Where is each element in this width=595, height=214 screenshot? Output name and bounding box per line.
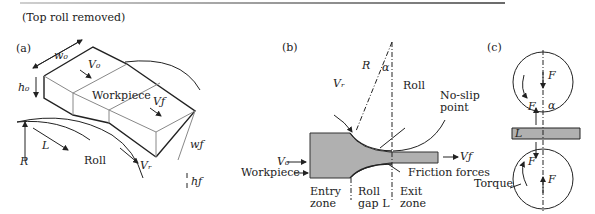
panel-a-drawing bbox=[17, 40, 200, 188]
label-alpha-c: α bbox=[548, 100, 555, 112]
label-w0: w₀ bbox=[54, 50, 68, 62]
label-F-left-bottom: F bbox=[528, 156, 536, 168]
label-roll-a: Roll bbox=[84, 155, 106, 167]
label-exit-zone-2: zone bbox=[400, 198, 426, 210]
label-workpiece-b: Workpiece bbox=[241, 167, 300, 179]
label-R-a: R bbox=[20, 156, 28, 168]
label-R-b: R bbox=[362, 60, 370, 72]
label-hf: hƒ bbox=[191, 176, 202, 188]
label-no-slip-2: point bbox=[440, 102, 469, 114]
label-L-a: L bbox=[42, 140, 49, 152]
label-Vf-b: Vƒ bbox=[460, 151, 472, 163]
label-L-c: L bbox=[515, 128, 522, 140]
label-roll-gap-2: gap L bbox=[358, 198, 389, 210]
label-F-bottom: F bbox=[548, 174, 556, 186]
label-h0: h₀ bbox=[18, 82, 30, 94]
panel-b-label: (b) bbox=[282, 42, 298, 54]
label-Vf-a: Vƒ bbox=[153, 96, 165, 108]
label-Vr-a: Vᵣ bbox=[140, 160, 152, 172]
label-torque: Torque bbox=[474, 178, 513, 190]
label-wf: wƒ bbox=[190, 139, 204, 151]
label-F-top: F bbox=[548, 70, 556, 82]
label-roll-b: Roll bbox=[403, 80, 425, 92]
panel-c-label: (c) bbox=[487, 42, 502, 54]
label-entry-zone-2: zone bbox=[310, 198, 336, 210]
label-V0: V₀ bbox=[88, 59, 100, 71]
label-workpiece-a: Workpiece bbox=[92, 90, 151, 102]
label-alpha-b: α bbox=[382, 62, 389, 74]
panel-a-label: (a) bbox=[16, 43, 31, 55]
label-F-left-top: F bbox=[528, 101, 536, 113]
top-roll-note: (Top roll removed) bbox=[22, 12, 125, 24]
label-Vr-b: Vᵣ bbox=[333, 78, 345, 90]
